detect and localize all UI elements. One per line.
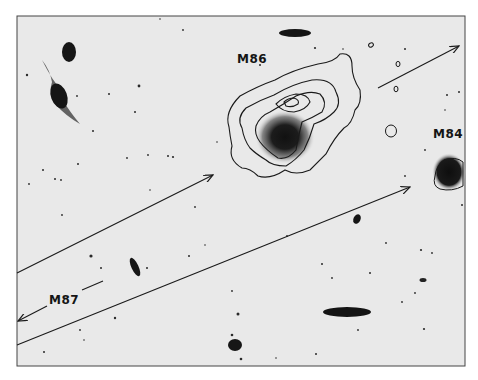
galaxy-right-small [420,278,427,282]
galaxy-lower-edge-on [323,307,371,317]
plate-background [17,16,465,366]
galaxy-bottom-oval [228,339,242,351]
galaxy-upper-left-oval [62,42,76,62]
galaxy-m86-core [255,110,315,164]
galaxy-top-edge-on [279,29,311,37]
label-m87: M87 [49,294,79,306]
label-m84: M84 [433,128,463,140]
label-m86: M86 [237,53,267,65]
